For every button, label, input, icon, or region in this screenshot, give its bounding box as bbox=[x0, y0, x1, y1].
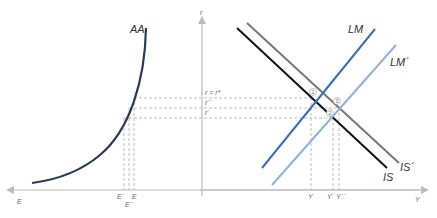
equilibrium-point-2: 2 bbox=[327, 110, 334, 117]
y-axis-label: Y bbox=[415, 196, 421, 203]
e-axis-label: E bbox=[17, 198, 22, 205]
r-prime-label: r´ bbox=[205, 109, 210, 116]
e-prime-label: E´ bbox=[117, 193, 125, 200]
r-star-label: r = r* bbox=[205, 89, 221, 96]
r-axis-label: r bbox=[200, 9, 203, 16]
aa-label: AA bbox=[129, 23, 145, 35]
is-label: IS bbox=[383, 171, 394, 183]
equilibrium-point-1: 1 bbox=[310, 89, 317, 96]
e-label: E bbox=[132, 193, 137, 200]
lm-curve bbox=[262, 29, 375, 168]
r-double-prime-label: r´´ bbox=[205, 99, 213, 106]
e-double-prime-label: E´´ bbox=[125, 201, 135, 208]
is-prime-label: IS´ bbox=[400, 161, 414, 173]
output-guides bbox=[311, 98, 339, 190]
lm-label: LM bbox=[348, 23, 364, 35]
y-double-prime-label: Y´´ bbox=[336, 193, 346, 200]
islm-aa-diagram: 1 2 3 AA LM LM´ IS´ IS r Y E r = r* r´´ … bbox=[0, 0, 437, 218]
lm-prime-curve bbox=[272, 45, 396, 185]
equilibrium-point-3: 3 bbox=[334, 98, 341, 105]
lm-prime-label: LM´ bbox=[390, 56, 409, 68]
y-label: Y bbox=[308, 193, 314, 200]
y-prime-label: Y´ bbox=[327, 193, 335, 200]
